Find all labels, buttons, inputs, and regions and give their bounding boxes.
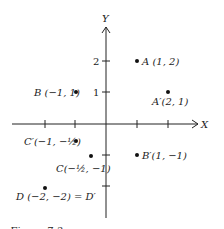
point-D: D (−2, −2) = D′ bbox=[15, 186, 97, 202]
svg-text:D (−2, −2) = D′: D (−2, −2) = D′ bbox=[15, 191, 97, 202]
svg-text:A′(2, 1): A′(2, 1) bbox=[151, 96, 188, 107]
point-A: A (1, 2) bbox=[135, 56, 179, 67]
figure-caption: Figure 7.3 bbox=[9, 225, 63, 229]
y-tick-label-2: 2 bbox=[93, 56, 99, 67]
svg-text:C(−½, −1): C(−½, −1) bbox=[56, 163, 111, 174]
point-B-prime: B′(1, −1) bbox=[135, 150, 187, 161]
svg-text:C′(−1, −½): C′(−1, −½) bbox=[24, 136, 81, 147]
x-axis-label: X bbox=[200, 119, 209, 130]
x-axis: X bbox=[12, 119, 209, 130]
point-B: B (−1, 1) bbox=[33, 87, 80, 98]
point-A-prime: A′(2, 1) bbox=[151, 90, 188, 107]
point-C-prime: C′(−1, −½) bbox=[24, 136, 81, 147]
svg-text:B (−1, 1): B (−1, 1) bbox=[33, 87, 80, 98]
svg-text:A (1, 2): A (1, 2) bbox=[141, 56, 179, 67]
y-axis-label: Y bbox=[102, 13, 110, 24]
point-C: C(−½, −1) bbox=[56, 154, 111, 174]
y-tick-label-1: 1 bbox=[93, 87, 99, 98]
coordinate-plot: X Y 2 1 A (1, 2) A′(2, 1) B (−1, 1) B′(1… bbox=[0, 0, 224, 229]
svg-text:B′(1, −1): B′(1, −1) bbox=[141, 150, 187, 161]
y-axis: Y 2 1 bbox=[93, 13, 110, 218]
